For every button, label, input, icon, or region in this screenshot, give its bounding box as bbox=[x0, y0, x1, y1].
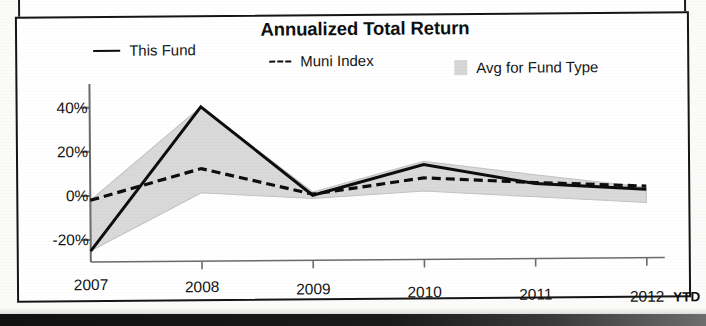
x-axis-tick-label: 2007 bbox=[74, 276, 109, 294]
page-bottom-dark-strip bbox=[0, 314, 706, 326]
y-axis-tick-label: 0% bbox=[24, 187, 88, 206]
annualized-total-return-chart-panel: Annualized Total Return This Fund Muni I… bbox=[15, 11, 691, 302]
legend-label-this-fund: This Fund bbox=[129, 41, 196, 59]
x-axis-tick-label: 2012 bbox=[630, 288, 665, 306]
dashed-line-swatch-icon bbox=[269, 60, 291, 62]
y-axis-line bbox=[89, 84, 90, 262]
x-axis-tick-label: 2011 bbox=[519, 285, 552, 303]
x-axis-tick-label: 2008 bbox=[185, 278, 220, 296]
scanned-page-background: Annualized Total Return This Fund Muni I… bbox=[0, 0, 706, 326]
legend-label-muni-index: Muni Index bbox=[300, 52, 374, 70]
chart-legend: This Fund Muni Index Avg for Fund Type bbox=[17, 35, 687, 70]
y-axis-tick-label: 40% bbox=[24, 99, 88, 118]
y-axis-tick-label: -20% bbox=[25, 231, 89, 250]
x-axis-ytd-label: YTD bbox=[673, 289, 700, 304]
legend-item-muni-index: Muni Index bbox=[269, 52, 374, 70]
x-axis-tick-label: 2009 bbox=[296, 281, 331, 299]
x-axis-tick-labels: 200720082009201020112012YTD bbox=[19, 257, 693, 302]
y-axis-tick-label: 20% bbox=[24, 143, 88, 162]
legend-item-this-fund: This Fund bbox=[93, 41, 196, 59]
x-axis-tick-label: 2010 bbox=[407, 283, 442, 301]
plot-area: 40%20%0%-20% 200720082009201020112012YTD bbox=[17, 71, 693, 302]
solid-line-swatch-icon bbox=[93, 49, 120, 51]
